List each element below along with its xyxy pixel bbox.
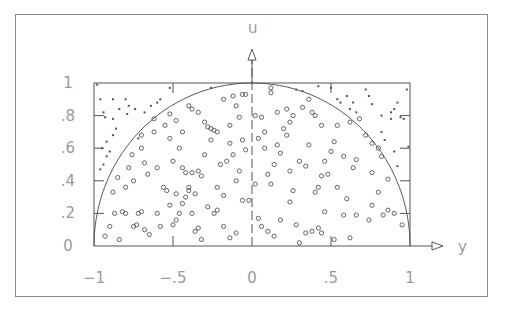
circle-marker <box>231 153 235 157</box>
circle-marker <box>184 195 188 199</box>
circle-marker <box>345 197 349 201</box>
circle-marker <box>193 192 197 196</box>
circle-marker <box>112 211 116 215</box>
circle-marker <box>234 231 238 235</box>
circle-marker <box>146 172 150 176</box>
circle-marker <box>348 120 352 124</box>
circle-marker <box>244 148 248 152</box>
circle-marker <box>313 190 317 194</box>
circle-marker <box>168 203 172 207</box>
dot-marker <box>336 98 338 100</box>
circle-marker <box>323 159 327 163</box>
circle-marker <box>335 123 339 127</box>
circle-marker <box>319 174 323 178</box>
x-tick-label: −.5 <box>160 269 187 287</box>
circle-marker <box>259 115 263 119</box>
circle-marker <box>247 198 251 202</box>
circle-marker <box>180 130 184 134</box>
dot-marker <box>396 102 398 104</box>
dot-marker <box>109 150 111 152</box>
circle-marker <box>180 166 184 170</box>
y-axis-arrow-icon <box>432 242 443 250</box>
dot-marker <box>390 111 392 113</box>
circle-marker <box>196 169 200 173</box>
circle-marker <box>124 185 128 189</box>
circle-marker <box>171 223 175 227</box>
circle-marker <box>108 224 112 228</box>
tick-labels: −1−.50.510.2.4.6.81 <box>61 74 415 287</box>
dot-marker <box>118 108 120 110</box>
circle-marker <box>158 224 162 228</box>
x-tick-label: −1 <box>83 269 105 287</box>
circle-marker <box>275 110 279 114</box>
circle-marker <box>294 223 298 227</box>
circle-marker <box>111 190 115 194</box>
circle-marker <box>354 213 358 217</box>
dot-marker <box>126 113 128 115</box>
circle-marker <box>131 179 135 183</box>
y-tick-label: .2 <box>61 204 75 222</box>
circle-marker <box>253 114 257 118</box>
circle-marker <box>199 237 203 241</box>
circle-marker <box>392 211 396 215</box>
circle-marker <box>400 223 404 227</box>
circle-marker <box>278 218 282 222</box>
circle-marker <box>184 171 188 175</box>
u-axis-arrow-icon <box>248 49 256 60</box>
circle-marker <box>332 140 336 144</box>
dot-marker <box>210 87 212 89</box>
circle-marker <box>300 105 304 109</box>
circle-marker <box>240 198 244 202</box>
circle-marker <box>231 94 235 98</box>
circle-marker <box>288 200 292 204</box>
circle-marker <box>269 86 273 90</box>
dot-marker <box>144 111 146 113</box>
dot-marker <box>102 164 104 166</box>
circle-marker <box>319 123 323 127</box>
circle-marker <box>209 138 213 142</box>
outside-points <box>96 84 409 171</box>
dot-marker <box>137 137 139 139</box>
dot-marker <box>302 90 304 92</box>
circle-marker <box>288 169 292 173</box>
dot-marker <box>128 105 130 107</box>
circle-marker <box>272 162 276 166</box>
circle-marker <box>285 133 289 137</box>
circle-marker <box>332 237 336 241</box>
circle-marker <box>304 164 308 168</box>
dot-marker <box>112 118 114 120</box>
dot-marker <box>396 165 398 167</box>
dot-marker <box>371 103 373 105</box>
circle-marker <box>379 154 383 158</box>
dot-marker <box>106 141 108 143</box>
dot-marker <box>99 168 101 170</box>
circle-marker <box>342 213 346 217</box>
y-tick-label: .6 <box>61 139 75 157</box>
circle-marker <box>116 175 120 179</box>
dot-marker <box>102 111 104 113</box>
circle-marker <box>237 169 241 173</box>
dot-marker <box>125 98 127 100</box>
circle-marker <box>203 153 207 157</box>
x-tick-label: 1 <box>405 269 415 287</box>
circle-marker <box>386 208 390 212</box>
circle-marker <box>367 218 371 222</box>
circle-marker <box>190 171 194 175</box>
y-tick-label: .4 <box>61 172 75 190</box>
circle-marker <box>221 97 225 101</box>
circle-marker <box>190 211 194 215</box>
circle-marker <box>304 231 308 235</box>
circle-marker <box>142 161 146 165</box>
circle-marker <box>282 127 286 131</box>
circle-marker <box>285 107 289 111</box>
circle-marker <box>326 172 330 176</box>
dot-marker <box>317 85 319 87</box>
circle-marker <box>180 202 184 206</box>
circle-marker <box>174 218 178 222</box>
circle-marker <box>307 143 311 147</box>
circle-marker <box>316 226 320 230</box>
circle-marker <box>253 182 257 186</box>
circle-marker <box>348 236 352 240</box>
circle-marker <box>168 112 172 116</box>
dot-marker <box>156 102 158 104</box>
